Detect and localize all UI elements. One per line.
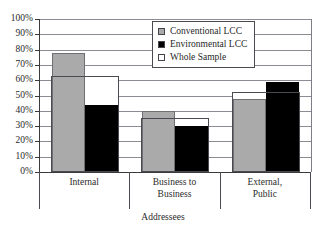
y-axis-label: 30% — [16, 121, 33, 131]
x-axis-title: Addressees — [0, 212, 326, 222]
legend-item-label: Conventional LCC — [170, 26, 242, 37]
legend-item-label: Environmental LCC — [170, 39, 247, 50]
legend-item[interactable]: Whole Sample — [158, 51, 247, 64]
bar-whole-sample[interactable] — [51, 76, 119, 172]
y-axis-label: 20% — [16, 137, 33, 147]
legend-item[interactable]: Environmental LCC — [158, 38, 247, 51]
chart-legend: Conventional LCCEnvironmental LCCWhole S… — [152, 21, 255, 68]
black-square-swatch — [158, 41, 165, 48]
gray-square-swatch — [158, 28, 165, 35]
y-axis-label: 50% — [16, 91, 33, 101]
bar-whole-sample[interactable] — [141, 118, 209, 172]
bar-chart-figure: 100%90%80%70%60%50%40%30%20%10%0% Intern… — [0, 0, 326, 232]
y-axis-label: 80% — [16, 45, 33, 55]
y-axis-label: 70% — [16, 60, 33, 70]
x-axis-category-line: Business — [129, 188, 219, 200]
bar-whole-sample[interactable] — [232, 92, 300, 172]
y-axis-label: 90% — [16, 30, 33, 40]
x-axis-separator — [310, 172, 311, 209]
caption-remnant — [0, 0, 326, 7]
y-axis-label: 10% — [16, 152, 33, 162]
x-axis-category-line: Business to — [129, 176, 219, 188]
x-axis-category-line: External, — [220, 176, 310, 188]
x-axis-category-label: External,Public — [220, 176, 310, 200]
x-axis-category-line: Internal — [39, 176, 129, 188]
x-axis-category-label: Internal — [39, 176, 129, 188]
y-axis-label: 100% — [11, 14, 33, 24]
x-axis-category-line: Public — [220, 188, 310, 200]
white-square-swatch — [158, 54, 165, 61]
bar-group — [40, 19, 130, 172]
y-axis-label: 60% — [16, 75, 33, 85]
x-axis-category-label: Business toBusiness — [129, 176, 219, 200]
legend-item-label: Whole Sample — [170, 52, 226, 63]
plot-border-right — [311, 19, 312, 172]
y-axis-label: 40% — [16, 106, 33, 116]
y-axis-label: 0% — [20, 167, 33, 177]
legend-item[interactable]: Conventional LCC — [158, 25, 247, 38]
